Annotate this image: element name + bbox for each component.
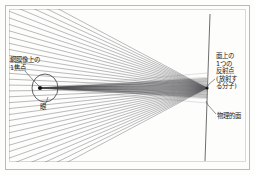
label-eye: 眼: [40, 104, 46, 112]
label-physical-surface: 物理的面: [217, 113, 241, 121]
label-retinal-focal-point: 網膜像上の 1焦点: [10, 57, 41, 72]
retinal-focal-point: [38, 86, 42, 90]
optics-ray-diagram: 網膜像上の 1焦点 眼 面上の 1つの 反射点 (放射す る分子) 物理的面: [0, 0, 255, 175]
label-reflection-point: 面上の 1つの 反射点 (放射す る分子): [216, 53, 237, 91]
